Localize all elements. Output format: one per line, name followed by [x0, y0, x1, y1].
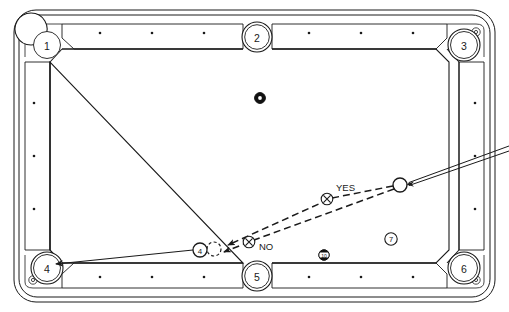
pocket-1[interactable]: 1 — [15, 13, 60, 58]
ball-seven[interactable]: 7 — [385, 233, 397, 245]
diamond-marker — [360, 276, 363, 279]
balls: 4 10 7 — [193, 93, 407, 261]
correct-aim-line — [228, 186, 393, 245]
corner-bolts — [29, 28, 480, 284]
top-left-rail — [62, 24, 243, 49]
pocket-6-label: 6 — [461, 263, 467, 275]
diamond-marker — [308, 276, 311, 279]
diamond-marker — [33, 102, 36, 105]
object-ball-path — [56, 250, 193, 264]
cloth-boundary-path — [50, 49, 449, 263]
table-svg: 1 2 3 4 5 — [0, 0, 509, 312]
pocket-2[interactable]: 2 — [242, 22, 272, 52]
diamond-marker — [33, 208, 36, 211]
object-ball-4[interactable]: 4 — [193, 243, 207, 257]
diamond-marker — [203, 276, 206, 279]
pocket-4[interactable]: 4 — [31, 252, 63, 284]
table-rails — [25, 24, 484, 288]
object-ball-line — [56, 250, 193, 264]
cabinet-inner-edge — [19, 15, 490, 297]
diamond-marker — [474, 208, 477, 211]
diamond-marker — [360, 32, 363, 35]
aim-marker-yes-label: YES — [336, 182, 355, 193]
bottom-left-rail — [62, 263, 243, 288]
bottom-right-rail — [272, 263, 447, 288]
aim-marker-no-label: NO — [259, 241, 273, 252]
diamond-marker — [412, 276, 415, 279]
diamond-marker — [99, 32, 102, 35]
diamond-marker — [151, 276, 154, 279]
pocket-3-label: 3 — [461, 40, 467, 52]
playing-surface — [50, 49, 459, 263]
aim-markers: YES NO — [243, 182, 355, 252]
diamond-marker — [203, 32, 206, 35]
ghost-ball — [207, 242, 221, 256]
pocket-4-label: 4 — [44, 263, 50, 275]
pocket-5-label: 5 — [254, 271, 260, 283]
cue-stick[interactable] — [406, 146, 509, 187]
ball-ten-label: 10 — [321, 253, 327, 259]
pocket-1-label: 1 — [44, 40, 50, 52]
pocket-3[interactable]: 3 — [448, 29, 480, 61]
cabinet-outer-edge — [14, 10, 495, 302]
pocket-2-label: 2 — [254, 32, 260, 44]
pockets: 1 2 3 4 5 — [15, 13, 480, 291]
ball-ten[interactable]: 10 — [319, 250, 329, 260]
diamond-marker — [151, 32, 154, 35]
pocket-6[interactable]: 6 — [448, 252, 480, 284]
corner-blocks — [25, 24, 484, 288]
diamond-marker — [412, 32, 415, 35]
table-cabinet — [14, 10, 495, 302]
aim-marker-yes: YES — [321, 182, 355, 205]
pocket-5[interactable]: 5 — [242, 261, 272, 291]
cue-ball[interactable] — [393, 178, 407, 192]
ball-eight[interactable] — [255, 93, 266, 104]
diamond-marker — [474, 155, 477, 158]
left-rail — [25, 62, 50, 250]
diamond-marker — [33, 155, 36, 158]
cue-ball-path-correct — [228, 186, 393, 245]
ball-seven-label: 7 — [389, 235, 393, 244]
diamond-marker — [99, 276, 102, 279]
object-ball-4-label: 4 — [198, 247, 203, 256]
bolt-icon — [31, 278, 34, 281]
top-right-rail — [272, 24, 447, 49]
pool-table-diagram: 1 2 3 4 5 — [0, 0, 509, 312]
diamond-marker — [308, 32, 311, 35]
diamond-marker — [474, 102, 477, 105]
